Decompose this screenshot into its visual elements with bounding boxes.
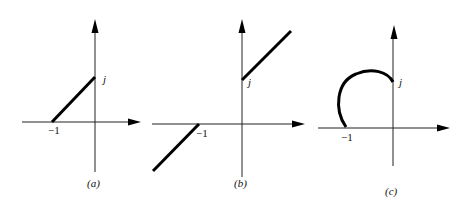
- imag-label-j: j: [397, 76, 402, 88]
- ray-from-minus1: [153, 124, 199, 171]
- complex-plane-figure: j −1 (a) j −1 (b) j −1 (c): [0, 0, 469, 205]
- segment-minus1-to-j: [52, 77, 95, 122]
- imaginary-axis-arrow-icon: [391, 25, 398, 39]
- imaginary-axis-arrow-icon: [239, 19, 246, 33]
- panel-a: j −1 (a): [22, 19, 141, 190]
- arc-minus1-to-j: [339, 71, 393, 127]
- real-axis-arrow-icon: [292, 121, 305, 128]
- imaginary-axis-arrow-icon: [92, 19, 99, 33]
- imag-label-j: j: [101, 73, 106, 85]
- ray-from-j: [242, 31, 291, 80]
- real-label-minus1: −1: [48, 124, 60, 136]
- caption-c: (c): [385, 185, 398, 198]
- imag-label-j: j: [246, 76, 251, 88]
- real-axis-arrow-icon: [128, 119, 141, 126]
- panel-b: j −1 (b): [152, 19, 305, 190]
- real-axis-arrow-icon: [437, 125, 450, 132]
- panel-c: j −1 (c): [318, 25, 450, 198]
- caption-b: (b): [234, 177, 247, 190]
- caption-a: (a): [87, 177, 100, 190]
- real-label-minus1: −1: [341, 131, 353, 143]
- real-label-minus1: −1: [196, 127, 208, 139]
